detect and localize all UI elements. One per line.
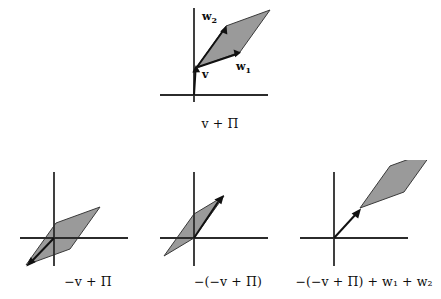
panel-v-plus-pi: w2 w1 v [140, 2, 300, 114]
caption-minus-v-plus-pi: −v + Π [8, 274, 168, 289]
panel-bottom-right-graphic [288, 160, 441, 272]
panel-bottom-left-graphic [8, 160, 168, 272]
panel-neg-of-minus-v-plus-pi [148, 160, 308, 272]
label-v: v [201, 68, 209, 81]
label-w1: w1 [235, 60, 251, 75]
label-w2: w2 [201, 10, 217, 25]
caption-v-plus-pi: v + Π [140, 116, 300, 131]
panel-top-graphic: w2 w1 v [140, 2, 300, 114]
panel-minus-v-plus-pi [8, 160, 168, 272]
panel-bottom-middle-graphic [148, 160, 308, 272]
figure-affine-plane-translations: w2 w1 v v + Π −v + Π [0, 0, 441, 299]
panel-neg-plus-w1-w2 [288, 160, 441, 272]
plane-parallelogram [360, 160, 434, 208]
caption-neg-plus-w1-w2: −(−v + Π) + w₁ + w₂ [280, 274, 441, 289]
vector-v [334, 209, 361, 239]
